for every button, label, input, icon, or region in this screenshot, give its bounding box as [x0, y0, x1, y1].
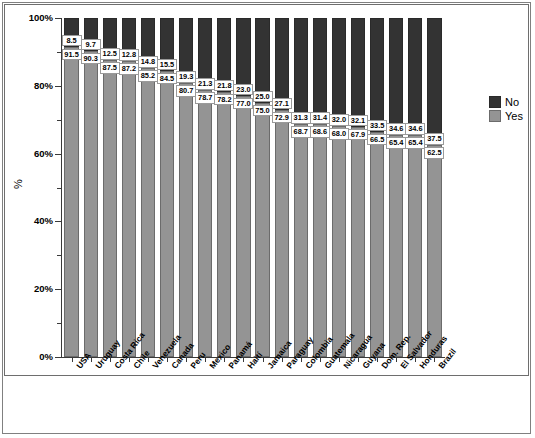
bar-segment-yes[interactable] — [313, 124, 327, 357]
bar-column[interactable] — [313, 18, 327, 357]
bar-value-label-no: 31.4 — [310, 112, 330, 123]
bar-segment-no[interactable] — [427, 18, 441, 145]
bar-segment-yes[interactable] — [198, 90, 212, 357]
bar-segment-no[interactable] — [313, 18, 327, 124]
legend-item[interactable]: No — [489, 96, 531, 108]
bar-column[interactable] — [64, 18, 78, 357]
bar-column[interactable] — [236, 18, 250, 357]
bar-value-label-no: 37.5 — [424, 133, 444, 144]
plot-area: 8.591.59.790.312.587.512.887.214.885.215… — [62, 18, 444, 357]
bar-segment-yes[interactable] — [141, 68, 155, 357]
x-axis-tick — [320, 357, 321, 362]
bar-segment-yes[interactable] — [427, 145, 441, 357]
bar-column[interactable] — [294, 18, 308, 357]
x-axis-tick — [110, 357, 111, 362]
bar-value-label-yes: 78.2 — [214, 94, 234, 105]
bar-segment-yes[interactable] — [64, 47, 78, 357]
bar-segment-no[interactable] — [370, 18, 384, 132]
x-axis-tick — [129, 357, 130, 362]
bar-value-label-yes: 78.7 — [195, 92, 215, 103]
bar-column[interactable] — [179, 18, 193, 357]
x-axis-tick — [434, 357, 435, 362]
bar-segment-yes[interactable] — [160, 71, 174, 357]
bar-column[interactable] — [255, 18, 269, 357]
bar-segment-yes[interactable] — [389, 135, 403, 357]
bar-value-label-yes: 75.0 — [253, 105, 273, 116]
bar-value-label-yes: 84.5 — [157, 73, 177, 84]
bar-segment-yes[interactable] — [294, 124, 308, 357]
x-axis-tick — [282, 357, 283, 362]
legend-label: No — [505, 97, 519, 108]
y-axis-tick-label: 100% — [5, 13, 53, 23]
bar-segment-yes[interactable] — [255, 103, 269, 357]
y-axis-tick-label: 40% — [5, 216, 53, 226]
bar-segment-yes[interactable] — [103, 60, 117, 357]
x-axis-tick — [358, 357, 359, 362]
bar-segment-no[interactable] — [351, 18, 365, 127]
bar-segment-no[interactable] — [294, 18, 308, 124]
bar-column[interactable] — [408, 18, 422, 357]
bar-value-label-yes: 87.2 — [119, 63, 139, 74]
bar-column[interactable] — [332, 18, 346, 357]
x-axis-tick — [339, 357, 340, 362]
y-axis-tick-label: 60% — [5, 149, 53, 159]
bar-segment-yes[interactable] — [275, 110, 289, 357]
bar-segment-yes[interactable] — [408, 135, 422, 357]
bar-value-label-no: 32.0 — [329, 114, 349, 125]
bar-column[interactable] — [427, 18, 441, 357]
bar-value-label-yes: 65.4 — [386, 137, 406, 148]
bar-column[interactable] — [351, 18, 365, 357]
bar-segment-no[interactable] — [275, 18, 289, 110]
bar-segment-yes[interactable] — [332, 126, 346, 357]
x-axis-tick — [167, 357, 168, 362]
bar-value-label-no: 12.8 — [119, 49, 139, 60]
bar-segment-yes[interactable] — [217, 92, 231, 357]
bar-segment-yes[interactable] — [370, 132, 384, 357]
bar-column[interactable] — [217, 18, 231, 357]
x-axis-tick — [72, 357, 73, 362]
x-axis-tick — [396, 357, 397, 362]
bar-segment-no[interactable] — [408, 18, 422, 135]
bar-value-label-yes: 77.0 — [233, 98, 253, 109]
x-axis-tick — [377, 357, 378, 362]
bar-value-label-no: 33.5 — [367, 120, 387, 131]
bar-column[interactable] — [389, 18, 403, 357]
legend-label: Yes — [505, 111, 523, 122]
bar-segment-yes[interactable] — [236, 96, 250, 357]
bar-column[interactable] — [198, 18, 212, 357]
bar-column[interactable] — [84, 18, 98, 357]
bar-column[interactable] — [370, 18, 384, 357]
bar-value-label-yes: 80.7 — [176, 85, 196, 96]
bar-column[interactable] — [275, 18, 289, 357]
y-axis-tick-label: 80% — [5, 81, 53, 91]
bar-segment-yes[interactable] — [179, 83, 193, 357]
bar-value-label-yes: 68.0 — [329, 128, 349, 139]
bar-value-label-yes: 68.6 — [310, 126, 330, 137]
bar-segment-no[interactable] — [389, 18, 403, 135]
bar-value-label-yes: 62.5 — [424, 147, 444, 158]
y-axis-tick-major — [55, 154, 61, 155]
bar-value-label-no: 8.5 — [62, 35, 82, 46]
bar-value-label-yes: 91.5 — [62, 49, 82, 60]
y-axis-tick-minor — [57, 120, 61, 121]
bar-segment-yes[interactable] — [84, 51, 98, 357]
bar-column[interactable] — [141, 18, 155, 357]
y-axis-labels: 0%20%40%60%80%100% — [0, 0, 53, 372]
bar-segment-yes[interactable] — [122, 61, 136, 357]
bar-value-label-no: 12.5 — [100, 48, 120, 59]
y-axis-tick-minor — [57, 323, 61, 324]
x-axis-tick — [263, 357, 264, 362]
y-axis-tick-major — [55, 221, 61, 222]
bar-value-label-no: 23.0 — [233, 84, 253, 95]
bar-value-label-no: 27.1 — [272, 98, 292, 109]
bar-value-label-yes: 65.4 — [405, 137, 425, 148]
bar-value-label-yes: 68.7 — [291, 126, 311, 137]
chart-legend: NoYes — [489, 96, 531, 124]
legend-item[interactable]: Yes — [489, 110, 531, 122]
bar-segment-yes[interactable] — [351, 127, 365, 357]
bar-value-label-yes: 66.5 — [367, 134, 387, 145]
bar-value-label-no: 21.8 — [214, 80, 234, 91]
bar-value-label-no: 31.3 — [291, 112, 311, 123]
bar-value-label-yes: 72.9 — [272, 112, 292, 123]
bar-segment-no[interactable] — [332, 18, 346, 126]
